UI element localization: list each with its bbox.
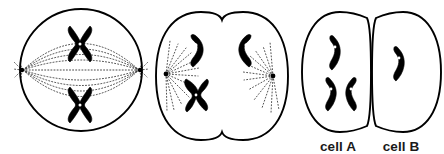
diagram-canvas: cell A cell B <box>0 0 444 154</box>
cell-b-membrane <box>372 12 441 132</box>
panel-anaphase-cell <box>156 12 288 140</box>
panel-metaphase-cell <box>13 9 149 131</box>
cell-b-label: cell B <box>383 139 420 154</box>
panel-daughter-cells: cell A cell B <box>302 12 441 154</box>
cleaving-cell-membrane <box>156 12 288 140</box>
cell-division-diagram: cell A cell B <box>0 0 444 154</box>
cell-a-membrane <box>302 12 371 132</box>
cell-a-label: cell A <box>320 139 356 154</box>
